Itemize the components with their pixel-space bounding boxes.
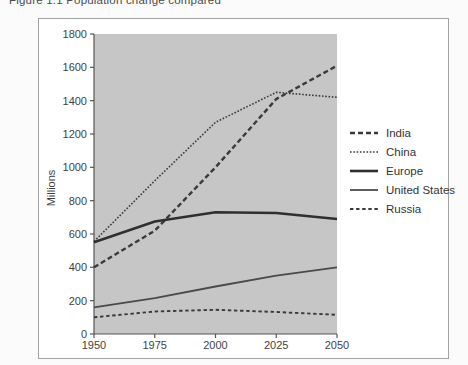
y-tick-label: 1200 — [47, 128, 87, 140]
legend-swatch-russia-icon — [349, 204, 379, 214]
legend-label: Europe — [386, 165, 423, 177]
legend-item-china: China — [349, 146, 455, 158]
legend-label: United States — [386, 184, 455, 196]
y-tick-label: 600 — [47, 228, 87, 240]
series-line-india — [94, 66, 337, 268]
legend: IndiaChinaEuropeUnited StatesRussia — [349, 127, 455, 215]
legend-label: China — [386, 146, 416, 158]
legend-label: India — [386, 127, 411, 139]
y-tick-label: 400 — [47, 261, 87, 273]
y-tick-label: 200 — [47, 295, 87, 307]
x-tick-label: 2025 — [254, 339, 298, 351]
legend-swatch-united-states-icon — [349, 185, 379, 195]
legend-item-united-states: United States — [349, 184, 455, 196]
figure-caption: Figure 1.1 Population change compared — [9, 0, 221, 6]
legend-swatch-europe-icon — [349, 166, 379, 176]
legend-label: Russia — [386, 203, 421, 215]
legend-item-india: India — [349, 127, 455, 139]
series-line-russia — [94, 310, 337, 318]
x-tick-label: 2050 — [315, 339, 359, 351]
series-line-china — [94, 92, 337, 241]
y-tick-label: 1400 — [47, 95, 87, 107]
y-tick-label: 1600 — [47, 61, 87, 73]
legend-item-russia: Russia — [349, 203, 455, 215]
y-tick-label: 800 — [47, 195, 87, 207]
x-tick-label: 2000 — [194, 339, 238, 351]
y-tick-label: 1800 — [47, 28, 87, 40]
series-line-united-states — [94, 267, 337, 307]
x-tick-label: 1950 — [72, 339, 116, 351]
legend-swatch-china-icon — [349, 147, 379, 157]
chart-frame: Millions 1800160014001200100080060040020… — [38, 18, 449, 359]
y-tick-label: 1000 — [47, 161, 87, 173]
legend-item-europe: Europe — [349, 165, 455, 177]
legend-swatch-india-icon — [349, 128, 379, 138]
series-line-europe — [94, 212, 337, 242]
plot-svg — [94, 34, 337, 334]
plot-area — [94, 34, 337, 334]
x-tick-label: 1975 — [133, 339, 177, 351]
